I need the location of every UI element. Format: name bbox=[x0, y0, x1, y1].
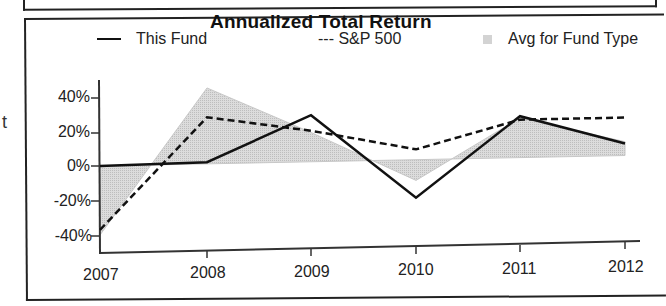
axes bbox=[91, 80, 640, 258]
avg-fund-type-area bbox=[100, 88, 625, 235]
